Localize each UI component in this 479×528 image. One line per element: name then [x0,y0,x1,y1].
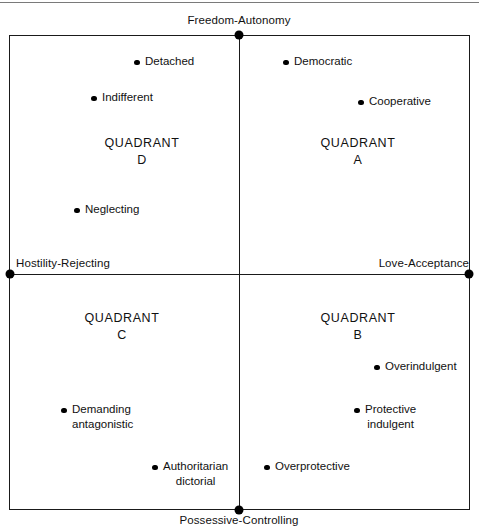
axis-label-top: Freedom-Autonomy [187,13,290,27]
quadrant-letter: B [321,327,396,344]
data-point: Overindulgent [374,359,457,374]
point-label: Democratic [283,54,352,69]
data-point: Neglecting [74,202,139,217]
point-label: Protective [354,402,416,417]
point-label-line2: indulgent [354,417,416,432]
axis-label-bottom: Possessive-Controlling [179,513,298,527]
point-marker-dot-icon [152,465,158,471]
point-marker-dot-icon [91,96,97,102]
point-label: Overindulgent [374,359,457,374]
point-marker-dot-icon [61,408,67,414]
data-point: Authoritariandictorial [152,459,228,489]
point-label: Neglecting [74,202,139,217]
point-marker-dot-icon [264,465,270,471]
data-point: Detached [134,54,194,69]
axis-label-right: Love-Acceptance [379,256,469,270]
data-point: Democratic [283,54,352,69]
point-label: Authoritarian [152,459,228,474]
quadrant-label-b: QUADRANTB [321,310,396,344]
point-marker-dot-icon [358,100,364,106]
quadrant-name: QUADRANT [105,136,180,150]
data-point: Overprotective [264,459,350,474]
quadrant-name: QUADRANT [85,311,160,325]
horizontal-axis [9,274,470,275]
quadrant-letter: D [105,152,180,169]
left-node [6,270,15,279]
quadrant-letter: A [321,152,396,169]
point-label-line2: antagonistic [61,417,133,432]
data-point: Indifferent [91,90,153,105]
vertical-axis [239,35,240,510]
axis-label-left: Hostility-Rejecting [16,256,110,270]
point-label: Indifferent [91,90,153,105]
quadrant-name: QUADRANT [321,136,396,150]
point-marker-dot-icon [74,208,80,214]
point-marker-dot-icon [354,408,360,414]
quadrant-label-d: QUADRANTD [105,135,180,169]
point-label-line2: dictorial [152,474,228,489]
data-point: Cooperative [358,94,431,109]
quadrant-name: QUADRANT [321,311,396,325]
top-node [235,31,244,40]
point-label: Demanding [61,402,133,417]
quadrant-label-c: QUADRANTC [85,310,160,344]
point-marker-dot-icon [134,60,140,66]
header-divider [0,2,479,3]
point-label: Cooperative [358,94,431,109]
data-point: Protectiveindulgent [354,402,416,432]
point-marker-dot-icon [374,365,380,371]
quadrant-letter: C [85,327,160,344]
point-label: Detached [134,54,194,69]
point-marker-dot-icon [283,60,289,66]
right-node [465,270,474,279]
quadrant-diagram-page: Freedom-Autonomy Possessive-Controlling … [0,0,479,528]
quadrant-label-a: QUADRANTA [321,135,396,169]
point-label: Overprotective [264,459,350,474]
data-point: Demandingantagonistic [61,402,133,432]
